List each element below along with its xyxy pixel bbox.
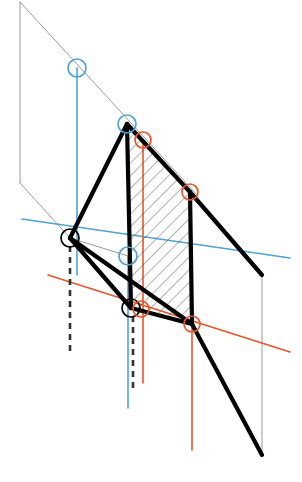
projection-diagram-svg xyxy=(0,0,302,482)
diagram-canvas xyxy=(0,0,302,482)
gray-sight-line-upper xyxy=(20,2,198,196)
ray-extend-top-right xyxy=(190,192,262,275)
dashed-drop-lines-layer xyxy=(70,246,133,388)
gray-sight-line-lower xyxy=(20,183,70,238)
ray-apex-to-quad-top xyxy=(70,124,127,238)
quad-edge-right xyxy=(190,192,192,324)
ray-extend-bottom-right xyxy=(192,324,262,455)
